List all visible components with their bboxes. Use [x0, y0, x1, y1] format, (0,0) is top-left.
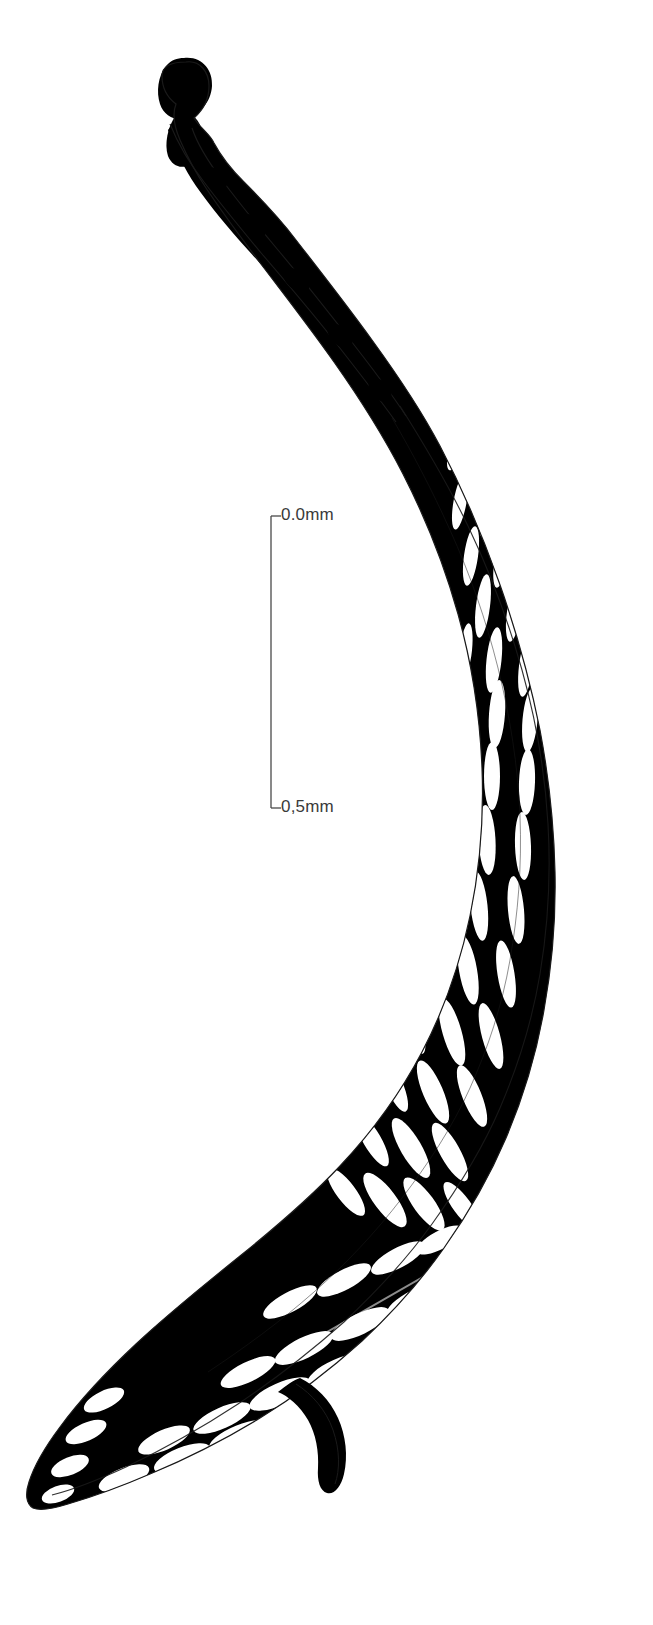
scale-bar-label-bottom: 0,5mm: [281, 797, 334, 817]
scale-bar-label-top: 0.0mm: [281, 505, 334, 525]
figure-root: 0.0mm 0,5mm: [0, 0, 653, 1625]
